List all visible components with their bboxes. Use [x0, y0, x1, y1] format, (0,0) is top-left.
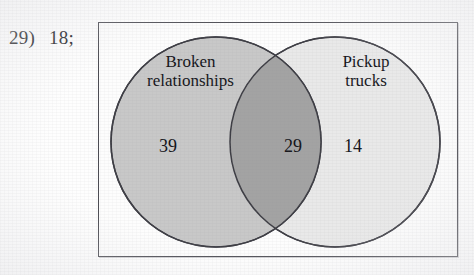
question-answer-text: 18; — [49, 28, 74, 47]
venn-diagram-svg — [99, 23, 456, 255]
venn-universe-box — [98, 22, 458, 257]
worksheet-page: 29) 18; Broken relationships — [0, 0, 474, 275]
question-number: 29) — [9, 28, 35, 47]
